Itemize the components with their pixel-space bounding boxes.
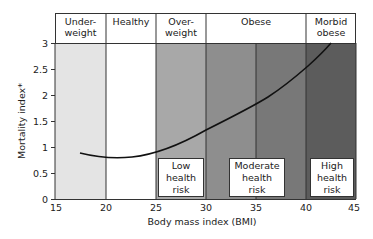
band-healthy bbox=[106, 43, 156, 199]
category-obese: Obese bbox=[241, 16, 271, 27]
risk-low-line2: health bbox=[166, 172, 196, 183]
x-tick-45: 45 bbox=[348, 202, 360, 213]
risk-high-line2: health bbox=[317, 172, 347, 183]
band-underweight bbox=[55, 43, 106, 199]
y-tick-2.5: 2.5 bbox=[33, 64, 48, 75]
category-header bbox=[56, 13, 356, 44]
x-tick-labels: 15 20 25 30 35 40 45 bbox=[50, 202, 360, 213]
y-tick-0: 0 bbox=[42, 194, 48, 205]
category-underweight-line2: weight bbox=[64, 27, 96, 38]
y-tick-1: 1 bbox=[42, 142, 48, 153]
category-morbid-line1: Morbid bbox=[315, 16, 348, 27]
risk-moderate-line2: health bbox=[242, 172, 272, 183]
y-tick-2: 2 bbox=[42, 90, 48, 101]
risk-moderate-line3: risk bbox=[249, 184, 266, 195]
x-tick-20: 20 bbox=[100, 202, 112, 213]
x-tick-15: 15 bbox=[50, 202, 62, 213]
risk-moderate-line1: Moderate bbox=[234, 160, 279, 171]
y-axis-title: Mortality index* bbox=[16, 83, 27, 159]
x-tick-25: 25 bbox=[150, 202, 162, 213]
y-tick-labels: 0 0.5 1 1.5 2 2.5 3 bbox=[33, 38, 48, 205]
category-overweight-line1: Over- bbox=[168, 16, 194, 27]
x-tick-35: 35 bbox=[250, 202, 262, 213]
category-underweight-line1: Under- bbox=[65, 16, 97, 27]
risk-boxes: Low health risk Moderate health risk Hig… bbox=[159, 159, 354, 197]
category-healthy: Healthy bbox=[113, 16, 150, 27]
y-tick-3: 3 bbox=[42, 38, 48, 49]
risk-low-line1: Low bbox=[172, 160, 191, 171]
category-overweight-line2: weight bbox=[165, 27, 197, 38]
x-tick-30: 30 bbox=[200, 202, 212, 213]
risk-high-line3: risk bbox=[324, 184, 341, 195]
x-axis-title: Body mass index (BMI) bbox=[148, 216, 257, 227]
x-tick-40: 40 bbox=[300, 202, 312, 213]
category-morbid-line2: obese bbox=[317, 27, 346, 38]
bmi-mortality-chart: Under- weight Healthy Over- weight Obese… bbox=[0, 0, 373, 239]
y-tick-0.5: 0.5 bbox=[33, 168, 48, 179]
risk-low-line3: risk bbox=[173, 184, 190, 195]
risk-high-line1: High bbox=[321, 160, 343, 171]
y-tick-1.5: 1.5 bbox=[33, 116, 48, 127]
